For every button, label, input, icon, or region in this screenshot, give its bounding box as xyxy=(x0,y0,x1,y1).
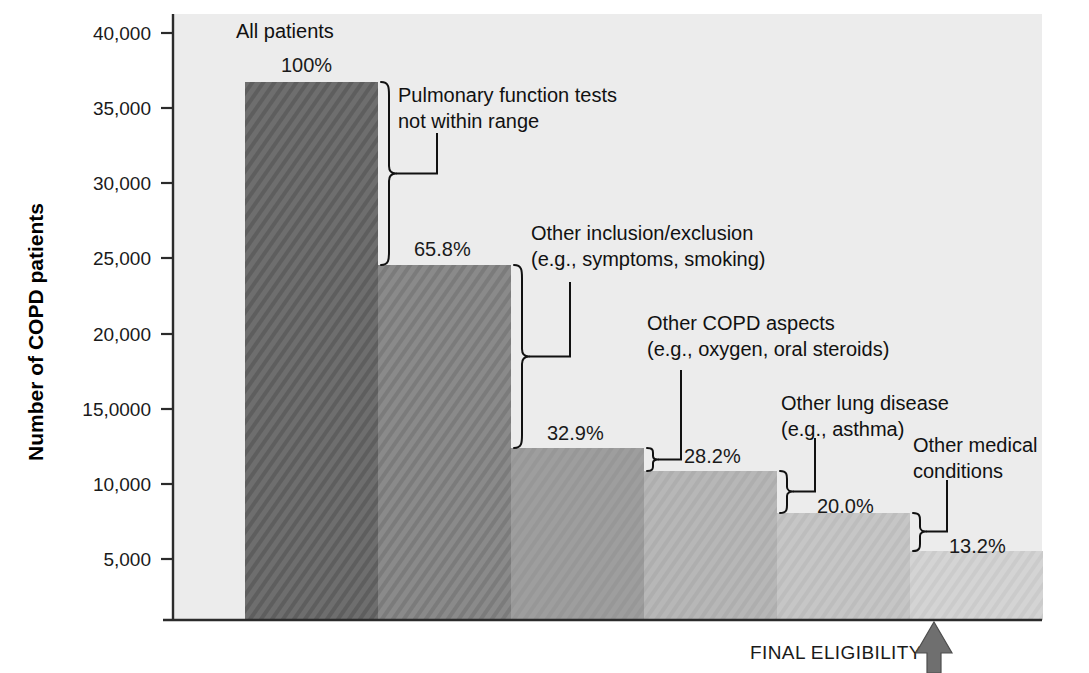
annotation-medical-conditions-line2: conditions xyxy=(913,460,1003,482)
annotation-copd-aspects-line1: Other COPD aspects xyxy=(647,312,835,334)
y-tick-label-20000: 20,000 xyxy=(93,324,151,345)
chart-figure: 40,000 35,000 30,000 25,000 20,000 15,00… xyxy=(0,0,1089,673)
y-axis-title: Number of COPD patients xyxy=(24,203,47,461)
y-tick-label-5000: 5,000 xyxy=(103,549,151,570)
y-tick-label-30000: 30,000 xyxy=(93,173,151,194)
bar-after-copd-aspects xyxy=(644,471,777,620)
bar-label-20-0-percent: 20.0% xyxy=(817,495,874,517)
y-tick-label-10000: 10,000 xyxy=(93,474,151,495)
annotation-pft-line2: not within range xyxy=(398,110,539,132)
y-tick-label-25000: 25,000 xyxy=(93,248,151,269)
bar-after-lung-disease xyxy=(777,513,910,620)
y-axis xyxy=(161,14,174,620)
bar-all-patients xyxy=(245,82,378,620)
annotation-medical-conditions-line1: Other medical xyxy=(913,434,1038,456)
bar-after-pft xyxy=(378,265,511,620)
annotation-lung-disease-line1: Other lung disease xyxy=(781,392,949,414)
annotation-pft-line1: Pulmonary function tests xyxy=(398,84,617,106)
copd-eligibility-waterfall-chart: 40,000 35,000 30,000 25,000 20,000 15,00… xyxy=(0,0,1089,673)
annotation-inclusion-line2: (e.g., symptoms, smoking) xyxy=(531,248,766,270)
bar-label-28-2-percent: 28.2% xyxy=(684,445,741,467)
y-tick-label-40000: 40,000 xyxy=(93,23,151,44)
annotation-lung-disease-line2: (e.g., asthma) xyxy=(781,418,904,440)
final-eligibility-label: FINAL ELIGIBILITY xyxy=(750,642,922,663)
y-tick-label-15000: 15,0000 xyxy=(82,399,151,420)
annotation-inclusion-line1: Other inclusion/exclusion xyxy=(531,222,753,244)
bar-label-100-percent: 100% xyxy=(281,54,332,76)
bar-label-65-8-percent: 65.8% xyxy=(414,238,471,260)
bar-label-13-2-percent: 13.2% xyxy=(949,535,1006,557)
bar-label-32-9-percent: 32.9% xyxy=(547,422,604,444)
y-tick-label-35000: 35,000 xyxy=(93,98,151,119)
bar-after-inclusion-exclusion xyxy=(511,448,644,620)
annotation-all-patients-line1: All patients xyxy=(236,20,334,42)
bar-final-eligible xyxy=(910,551,1043,620)
final-eligibility-up-arrow-icon xyxy=(916,622,952,673)
annotation-copd-aspects-line2: (e.g., oxygen, oral steroids) xyxy=(647,338,889,360)
